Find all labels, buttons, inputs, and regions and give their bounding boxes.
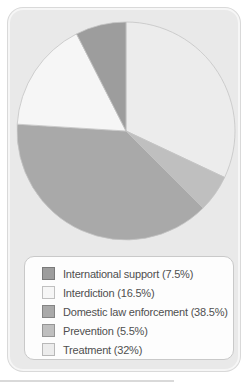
legend-item-label: Prevention (5.5%) xyxy=(63,325,148,337)
legend-item: Interdiction (16.5%) xyxy=(42,283,233,302)
legend-swatch-interdiction xyxy=(42,286,55,299)
figure-card: International support (7.5%) Interdictio… xyxy=(8,8,240,371)
legend-item: International support (7.5%) xyxy=(42,264,233,283)
legend-swatch-international-support xyxy=(42,267,55,280)
legend-swatch-prevention xyxy=(42,324,55,337)
legend-swatch-treatment xyxy=(42,343,55,356)
legend-item: Domestic law enforcement (38.5%) xyxy=(42,302,233,321)
legend-item: Prevention (5.5%) xyxy=(42,321,233,340)
page-edge-line xyxy=(0,380,174,382)
legend-item-label: Treatment (32%) xyxy=(63,344,142,356)
legend-item-label: Domestic law enforcement (38.5%) xyxy=(63,306,228,318)
legend-item-label: International support (7.5%) xyxy=(63,268,193,280)
legend-item: Treatment (32%) xyxy=(42,340,233,359)
legend-swatch-domestic-law-enforcement xyxy=(42,305,55,318)
legend-item-label: Interdiction (16.5%) xyxy=(63,287,154,299)
pie-chart xyxy=(11,16,241,246)
legend: International support (7.5%) Interdictio… xyxy=(24,256,234,360)
